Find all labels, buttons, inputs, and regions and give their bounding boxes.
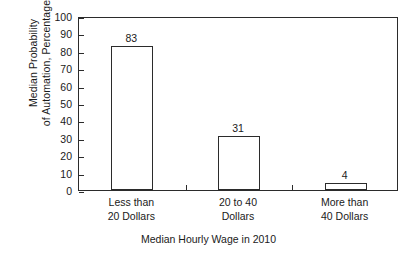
category-label-line-2: 40 Dollars bbox=[285, 210, 405, 224]
category-label-line-1: More than bbox=[321, 196, 368, 208]
y-axis-tick bbox=[79, 88, 84, 89]
y-axis-tick bbox=[79, 53, 84, 54]
x-axis-title: Median Hourly Wage in 2010 bbox=[0, 233, 417, 245]
y-axis-tick-label: 90 bbox=[46, 29, 72, 39]
y-axis-tick bbox=[79, 175, 84, 176]
bar-value-label: 31 bbox=[208, 123, 268, 134]
bar-value-label: 4 bbox=[315, 170, 375, 181]
y-axis-tick bbox=[79, 140, 84, 141]
y-axis-title-line-1: Median Probability bbox=[27, 19, 40, 107]
y-axis-tick-label: 20 bbox=[46, 151, 72, 161]
y-axis-tick-label: 40 bbox=[46, 116, 72, 126]
x-axis-tick bbox=[292, 185, 293, 190]
y-axis-tick bbox=[79, 192, 84, 193]
category-label-line-2: 20 Dollars bbox=[71, 210, 191, 224]
y-axis-tick-label: 50 bbox=[46, 99, 72, 109]
category-label-line-1: 20 to 40 bbox=[219, 196, 257, 208]
x-axis-category-label: More than40 Dollars bbox=[285, 196, 405, 223]
y-axis-tick bbox=[79, 35, 84, 36]
bar[interactable] bbox=[218, 136, 260, 190]
bar-chart-figure: Median Probability of Automation, Percen… bbox=[0, 0, 417, 254]
x-axis-category-label: Less than20 Dollars bbox=[71, 196, 191, 223]
x-axis-category-label: 20 to 40Dollars bbox=[178, 196, 298, 223]
y-axis-tick-label: 30 bbox=[46, 134, 72, 144]
y-axis-tick bbox=[79, 122, 84, 123]
category-label-line-1: Less than bbox=[109, 196, 155, 208]
x-axis-tick bbox=[186, 185, 187, 190]
bar[interactable] bbox=[111, 46, 153, 190]
category-label-line-2: Dollars bbox=[178, 210, 298, 224]
y-axis-tick-label: 60 bbox=[46, 82, 72, 92]
y-axis-tick bbox=[79, 157, 84, 158]
y-axis-tick-labels: 0102030405060708090100 bbox=[46, 0, 72, 254]
y-axis-tick-label: 0 bbox=[46, 186, 72, 196]
y-axis-tick bbox=[79, 105, 84, 106]
y-axis-tick bbox=[79, 18, 84, 19]
y-axis-tick-label: 70 bbox=[46, 64, 72, 74]
y-axis-tick-label: 10 bbox=[46, 169, 72, 179]
y-axis-tick-label: 80 bbox=[46, 47, 72, 57]
y-axis-tick bbox=[79, 70, 84, 71]
bar[interactable] bbox=[325, 183, 367, 190]
bar-value-label: 83 bbox=[101, 33, 161, 44]
y-axis-tick-label: 100 bbox=[46, 12, 72, 22]
